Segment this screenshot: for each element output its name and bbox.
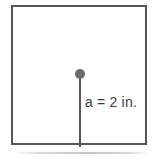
dimension-label: a = 2 in. [85,94,137,110]
apothem-segment-line [79,74,81,147]
geometry-figure: a = 2 in. [0,0,159,161]
figure-base-shadow [14,152,148,154]
center-point-dot [75,69,85,79]
